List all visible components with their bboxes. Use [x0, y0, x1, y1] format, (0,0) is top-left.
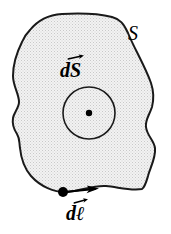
- surface-element-label: dS: [60, 60, 81, 80]
- line-element-label: dℓ: [66, 203, 85, 223]
- line-element-symbol-text: ℓ: [76, 201, 85, 225]
- surface-element-d-text: d: [60, 60, 70, 80]
- surface-element-symbol-text: S: [70, 59, 81, 81]
- physics-figure: S dS dℓ: [0, 0, 171, 234]
- line-element-d-text: d: [66, 203, 76, 223]
- figure-canvas: [0, 0, 171, 234]
- surface-label: S: [128, 23, 138, 43]
- surface-label-text: S: [128, 22, 138, 44]
- out-of-page-dot: [86, 110, 92, 116]
- line-element-vector: ℓ: [76, 203, 85, 223]
- surface-element-vector: S: [70, 60, 81, 80]
